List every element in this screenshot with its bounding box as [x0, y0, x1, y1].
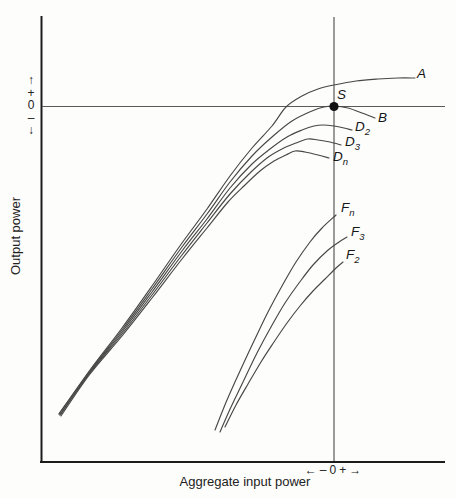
- plus-sign: +: [339, 463, 346, 477]
- curve-label-A: A: [417, 67, 426, 81]
- up-arrow-icon: ↑: [28, 74, 34, 87]
- left-arrow-icon: ←: [305, 463, 317, 477]
- curve-F2: [225, 262, 343, 427]
- zero-label: 0: [329, 463, 336, 477]
- y-axis-title: Output power: [8, 176, 24, 296]
- curve-label-Dn: Dn: [333, 150, 348, 164]
- curve-D3: [60, 139, 341, 415]
- down-arrow-icon: ↓: [28, 124, 34, 137]
- curve-label-D3: D3: [345, 135, 360, 149]
- curve-Dn: [61, 151, 329, 416]
- figure-canvas: A S B D2 D3 Dn Fn F3 F2 Aggregate input …: [0, 0, 456, 498]
- saturation-point-label: S: [337, 88, 346, 102]
- plot-svg: [0, 0, 456, 498]
- curve-label-D2: D2: [355, 120, 370, 134]
- right-arrow-icon: →: [349, 463, 361, 477]
- zero-label: 0: [28, 99, 35, 112]
- curve-label-F3: F3: [351, 225, 365, 239]
- minus-sign: –: [320, 463, 327, 477]
- curve-label-F2: F2: [346, 248, 360, 262]
- x-axis-zero-marker: ← – 0 + →: [301, 463, 365, 477]
- curve-F3: [220, 237, 347, 432]
- curve-B: [59, 106, 375, 414]
- y-axis-zero-marker: ↑ + 0 – ↓: [23, 74, 39, 137]
- curve-label-B: B: [378, 111, 387, 125]
- saturation-point-dot: [329, 102, 338, 111]
- curve-Fn: [215, 215, 336, 430]
- curve-label-Fn: Fn: [341, 201, 355, 215]
